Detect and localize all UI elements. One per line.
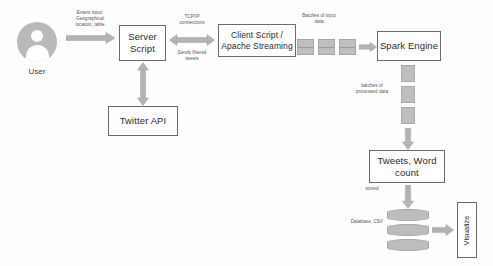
node-tweets-word-count[interactable]: Tweets, Word count (369, 150, 445, 183)
user-caption: User (7, 67, 67, 76)
input-batch-block (318, 39, 335, 55)
avatar-head-icon (31, 30, 43, 42)
processed-batch-block (401, 86, 415, 103)
edge-label-stored: stored (352, 186, 392, 192)
user-avatar-icon (17, 22, 57, 62)
edge-label-batches-of-processed-data: batches of processed data (345, 83, 399, 95)
visualize-label: Visualize (463, 215, 472, 245)
edge-label-user-to-server: Enters input: Geographical location, tab… (66, 10, 114, 28)
node-visualize[interactable]: Visualize (457, 202, 477, 258)
node-client-script-apache-streaming[interactable]: Client Script / Apache Streaming (218, 24, 296, 57)
arrow-batches-to-spark-engine (359, 42, 377, 52)
input-batch-block (339, 39, 356, 55)
database-cylinder (387, 224, 429, 236)
input-batch-block (297, 39, 314, 55)
database-cylinder (387, 209, 429, 221)
arrow-processed-to-tweets-word-count (402, 128, 414, 150)
node-server-script[interactable]: Server Script (119, 25, 166, 61)
processed-batch-block (401, 65, 415, 82)
arrow-user-to-server (66, 32, 116, 44)
edge-label-sends-filtered-tweets: Sends filtered tweets (167, 50, 217, 62)
node-twitter-api[interactable]: Twitter API (108, 106, 178, 136)
node-spark-engine[interactable]: Spark Engine (377, 31, 441, 61)
arrow-tweets-to-database (402, 185, 414, 209)
processed-batch-block (401, 107, 415, 124)
arrow-database-to-visualize (432, 224, 454, 236)
avatar-body-icon (26, 45, 49, 62)
edge-label-tcp-connections: TCP/IP connections (168, 14, 216, 26)
edge-label-database-csv: Database, CSV (333, 219, 383, 225)
arrow-server-to-twitter-api (137, 62, 149, 106)
diagram-canvas: User Enters input: Geographical location… (0, 0, 493, 266)
arrow-server-to-client-script (169, 34, 215, 46)
database-cylinder (387, 239, 429, 251)
edge-label-batches-of-input-data: Batches of input data (288, 13, 350, 25)
